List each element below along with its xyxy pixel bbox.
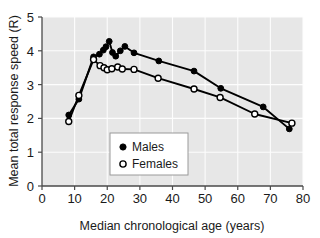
data-point-males (156, 58, 162, 64)
y-axis-title: Mean total response speed (R) (7, 15, 21, 187)
data-point-males (122, 44, 128, 50)
y-tick-label: 2 (27, 111, 34, 126)
y-tick-label: 1 (27, 145, 34, 160)
data-point-females (119, 66, 125, 72)
data-point-females (191, 86, 197, 92)
data-point-males (66, 112, 72, 118)
data-point-females (131, 66, 137, 72)
response-speed-by-age-chart: 01020304050607080 012345 Median chronolo… (0, 0, 320, 238)
x-tick-label: 50 (198, 191, 212, 206)
x-tick-label: 80 (296, 191, 310, 206)
legend-marker-males-icon (120, 144, 126, 150)
data-point-males (191, 68, 197, 74)
x-tick-label: 20 (100, 191, 114, 206)
data-point-females (91, 57, 97, 63)
data-point-males (131, 50, 137, 56)
x-tick-label: 60 (231, 191, 245, 206)
legend-label-males: Males (132, 140, 164, 154)
data-point-females (252, 111, 258, 117)
data-point-males (113, 53, 119, 59)
x-tick-label: 0 (38, 191, 45, 206)
y-tick-label: 3 (27, 78, 34, 93)
data-point-males (117, 48, 123, 54)
data-point-males (103, 44, 109, 50)
data-point-females (76, 92, 82, 98)
x-tick-label: 70 (263, 191, 277, 206)
data-point-females (155, 75, 161, 81)
x-axis-tick-labels: 01020304050607080 (38, 191, 310, 206)
data-point-males (260, 104, 266, 110)
data-point-males (286, 126, 292, 132)
data-point-males (218, 85, 224, 91)
x-axis-title: Median chronological age (years) (80, 219, 265, 233)
x-tick-label: 40 (165, 191, 179, 206)
data-point-females (289, 120, 295, 126)
y-tick-label: 0 (27, 179, 34, 194)
data-point-females (217, 94, 223, 100)
data-point-females (66, 118, 72, 124)
legend-label-females: Females (132, 157, 178, 171)
chart-legend: Males Females (110, 133, 188, 175)
y-tick-label: 4 (27, 44, 34, 59)
x-tick-label: 30 (133, 191, 147, 206)
data-point-females (109, 66, 115, 72)
x-tick-label: 10 (67, 191, 81, 206)
y-tick-label: 5 (27, 10, 34, 25)
chart-figure: 01020304050607080 012345 Median chronolo… (0, 0, 320, 238)
data-point-males (106, 38, 112, 44)
legend-marker-females-icon (120, 161, 126, 167)
